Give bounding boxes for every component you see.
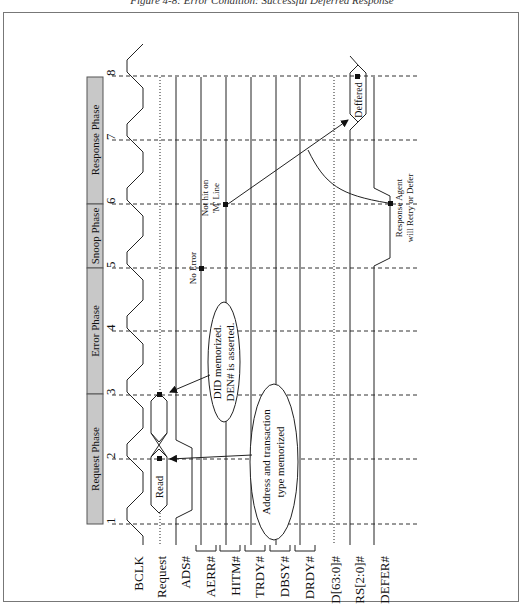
ads-waveform [176,77,192,545]
phase-bar: Response Phase Snoop Phase Error Phase R… [87,77,103,524]
label-drdy: DRDY# [302,556,317,600]
clock-8: 8 [103,70,118,77]
rs-bus [350,56,366,545]
clock-6: 6 [103,197,118,204]
marker-hitm-not-hit [223,202,228,207]
no-error-label: No Error [188,252,198,284]
label-brackets [196,545,315,551]
response-agent-line1: Response Agent [394,178,404,237]
rs-deferred-value: Deffered [353,82,364,117]
label-defer: DEFER# [377,556,392,604]
response-agent-line2: will Retry or Defer [405,174,415,243]
request-bus [151,77,167,545]
did-memorized-line1: DID memorized. [211,324,223,399]
clock-2: 2 [103,453,118,460]
timing-diagram: Response Phase Snoop Phase Error Phase R… [0,0,524,615]
defer-waveform [374,77,390,545]
did-memorized-line2: DEN# is asserted. [224,322,236,401]
bclk-waveform [127,44,143,545]
curve-to-defer [308,150,388,203]
label-ads: ADS# [178,556,193,589]
request-hex-2 [151,393,167,442]
phase-label-response: Response Phase [89,105,101,176]
phase-label-error: Error Phase [89,305,101,357]
phase-label-snoop: Snoop Phase [89,208,101,265]
label-request: Request [154,556,169,598]
label-aerr: AERR# [203,556,218,598]
not-hit-line2: 'M' Line [211,183,221,213]
arrow-address-to-request [170,455,252,459]
marker-request-clock2 [157,456,162,461]
signal-labels: BCLK Request ADS# AERR# HITM# TRDY# DBSY… [131,555,392,603]
label-dbsy: DBSY# [277,556,292,598]
arrow-hitm-to-deferred [228,120,348,204]
label-hitm: HITM# [228,556,243,596]
marker-defer-clock6 [388,201,393,206]
marker-aerr-no-error [199,266,204,271]
request-read-value: Read [153,475,165,498]
address-memorized-line1: Address and transaction [260,409,272,515]
phase-label-request: Request Phase [89,427,101,491]
label-data-bus: D[63:0]# [328,556,343,604]
clock-7: 7 [103,133,118,140]
marker-request-clock3 [157,392,162,397]
not-hit-line1: Not hit on [200,179,210,216]
label-trdy: TRDY# [252,556,267,598]
clock-5: 5 [103,262,118,269]
address-memorized-line2: type memorized [274,426,286,498]
label-bclk: BCLK [131,555,146,590]
clock-numbers: 1 2 3 4 5 6 7 8 [103,70,118,525]
clock-1: 1 [103,518,118,525]
label-rs: RS[2:0]# [352,556,367,604]
clock-4: 4 [103,324,118,331]
marker-rs-clock8 [355,74,360,79]
clock-3: 3 [103,389,118,396]
